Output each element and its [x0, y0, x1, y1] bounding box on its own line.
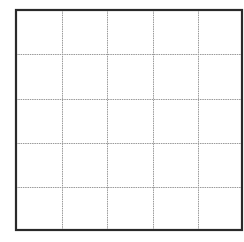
five-by-five-grid [0, 0, 244, 242]
outer-border [16, 10, 242, 230]
grid-diagram [0, 0, 244, 242]
inner-grid-lines [16, 10, 242, 230]
